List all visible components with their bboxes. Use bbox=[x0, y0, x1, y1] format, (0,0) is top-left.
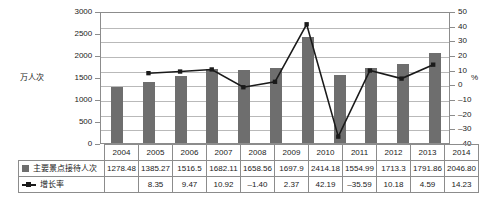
table-value-cell: 8.35 bbox=[139, 177, 173, 193]
line-marker bbox=[210, 67, 214, 71]
growth-rate-polyline bbox=[148, 24, 433, 136]
table-value-cell: 1791.86 bbox=[411, 161, 445, 177]
left-axis-tick-label: 1000 bbox=[36, 96, 92, 104]
right-axis-tick-mark bbox=[450, 129, 455, 130]
right-axis-tick-label: –30 bbox=[458, 125, 484, 133]
right-axis-tick-label: 20 bbox=[458, 52, 484, 60]
right-axis-tick-mark bbox=[450, 27, 455, 28]
table-year-header: 2009 bbox=[275, 145, 309, 161]
table-value-cell: 42.19 bbox=[309, 177, 343, 193]
line-marker bbox=[431, 62, 435, 66]
chart-plot-region: 万人次 % 300025002000150010005000 504030201… bbox=[0, 0, 490, 150]
right-axis-tick-label: –10 bbox=[458, 96, 484, 104]
table-series-legend-cell: 主要景点接待人次 bbox=[19, 161, 105, 177]
right-axis-tick-mark bbox=[450, 41, 455, 42]
chart-data-table: 2004200520062007200820092010201120122013… bbox=[18, 144, 479, 193]
table-body: 主要景点接待人次1278.481385.271516.51682.111658.… bbox=[19, 161, 479, 193]
right-axis-tick-label: 0 bbox=[458, 81, 484, 89]
table-value-cell: 1658.56 bbox=[241, 161, 275, 177]
table-header-row: 2004200520062007200820092010201120122013… bbox=[19, 145, 479, 161]
table-value-cell: 1713.3 bbox=[377, 161, 411, 177]
legend-label: 主要景点接待人次 bbox=[33, 164, 97, 173]
right-axis-tick-mark bbox=[450, 12, 455, 13]
line-marker bbox=[336, 134, 340, 138]
table-year-header: 2007 bbox=[207, 145, 241, 161]
right-axis-tick-label: 40 bbox=[458, 23, 484, 31]
table-value-cell: 2414.18 bbox=[309, 161, 343, 177]
table-row: 主要景点接待人次1278.481385.271516.51682.111658.… bbox=[19, 161, 479, 177]
table-year-header: 2004 bbox=[105, 145, 139, 161]
left-axis-tick-label: 3000 bbox=[36, 8, 92, 16]
table-year-header: 2012 bbox=[377, 145, 411, 161]
table-year-header: 2011 bbox=[343, 145, 377, 161]
right-axis-tick-mark bbox=[450, 85, 455, 86]
legend-line-marker-icon bbox=[22, 181, 36, 188]
growth-rate-line-series bbox=[101, 13, 449, 143]
table-year-header: 2005 bbox=[139, 145, 173, 161]
table-value-cell: 1516.5 bbox=[173, 161, 207, 177]
table-year-header: 2010 bbox=[309, 145, 343, 161]
table-value-cell: –35.59 bbox=[343, 177, 377, 193]
table-year-header: 2013 bbox=[411, 145, 445, 161]
chart-page: 万人次 % 300025002000150010005000 504030201… bbox=[0, 0, 490, 198]
right-axis-tick-mark bbox=[450, 100, 455, 101]
table-series-legend-cell: 增长率 bbox=[19, 177, 105, 193]
legend-entry: 主要景点接待人次 bbox=[22, 164, 104, 173]
table-row: 增长率8.359.4710.92–1.402.3742.19–35.5910.1… bbox=[19, 177, 479, 193]
left-axis-tick-label: 2000 bbox=[36, 52, 92, 60]
right-axis-tick-label: 50 bbox=[458, 8, 484, 16]
line-marker bbox=[178, 69, 182, 73]
line-marker bbox=[368, 68, 372, 72]
table-value-cell: 2046.80 bbox=[445, 161, 479, 177]
line-marker bbox=[399, 76, 403, 80]
right-axis-tick-mark bbox=[450, 115, 455, 116]
right-axis-tick-mark bbox=[450, 56, 455, 57]
left-axis-tick-label: 2500 bbox=[36, 30, 92, 38]
right-axis-tick-label: –20 bbox=[458, 111, 484, 119]
table-year-header: 2006 bbox=[173, 145, 207, 161]
table-value-cell: 2.37 bbox=[275, 177, 309, 193]
table-value-cell: 10.18 bbox=[377, 177, 411, 193]
table-value-cell bbox=[105, 177, 139, 193]
line-marker bbox=[146, 71, 150, 75]
line-marker bbox=[241, 85, 245, 89]
right-axis-tick-mark bbox=[450, 71, 455, 72]
table-value-cell: 1682.11 bbox=[207, 161, 241, 177]
table-corner-blank bbox=[19, 145, 105, 161]
table-value-cell: –1.40 bbox=[241, 177, 275, 193]
table-value-cell: 1278.48 bbox=[105, 161, 139, 177]
legend-label: 增长率 bbox=[40, 180, 64, 189]
table-value-cell: 1385.27 bbox=[139, 161, 173, 177]
table-value-cell: 1697.9 bbox=[275, 161, 309, 177]
growth-rate-markers bbox=[146, 22, 435, 139]
table-value-cell: 9.47 bbox=[173, 177, 207, 193]
line-marker bbox=[304, 22, 308, 26]
legend-square-icon bbox=[22, 165, 29, 172]
table-value-cell: 14.23 bbox=[445, 177, 479, 193]
right-axis-tick-label: 10 bbox=[458, 67, 484, 75]
left-axis-tick-label: 500 bbox=[36, 118, 92, 126]
left-axis-tick-label: 1500 bbox=[36, 74, 92, 82]
table-value-cell: 10.92 bbox=[207, 177, 241, 193]
legend-entry: 增长率 bbox=[22, 180, 104, 189]
table-year-header: 2008 bbox=[241, 145, 275, 161]
table-value-cell: 4.59 bbox=[411, 177, 445, 193]
right-axis-tick-label: 30 bbox=[458, 37, 484, 45]
line-marker bbox=[273, 80, 277, 84]
plot-frame bbox=[100, 12, 450, 144]
table-value-cell: 1554.99 bbox=[343, 161, 377, 177]
table-year-header: 2014 bbox=[445, 145, 479, 161]
